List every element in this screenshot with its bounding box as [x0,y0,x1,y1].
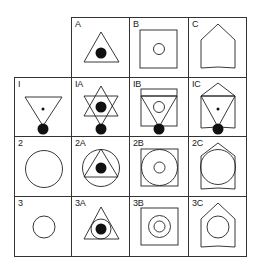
small-circle-icon [15,197,73,258]
cell-3A: 3A [71,196,130,257]
square-concentric-circle-icon [130,137,190,198]
large-circle-icon [15,137,73,198]
arch-small-circle-icon [189,197,248,258]
cell-1A: IA [71,77,130,137]
arch-circle-icon [189,137,248,198]
inverted-triangle-icon [15,78,73,138]
cell-3C: 3C [188,196,247,257]
square-circle-icon [130,18,190,79]
cell-2: 2 [14,136,72,197]
cell-3: 3 [14,196,72,257]
cell-3B: 3B [129,196,189,257]
arch-shape-icon [189,18,248,79]
hexagram-icon [72,78,131,138]
cell-2C: 2C [188,136,247,197]
cell-2B: 2B [129,136,189,197]
cell-B: B [129,17,189,78]
cell-A: A [71,17,130,78]
cell-C: C [188,17,247,78]
cell-2A: 2A [71,136,130,197]
cell-1C: IC [188,77,247,137]
triangle-dot-icon [72,18,131,79]
cell-1: I [14,77,72,137]
cell-1B: IB [129,77,189,137]
triangle-circle-dot-icon [72,197,131,258]
square-double-circle-icon [130,197,190,258]
arch-inverted-triangle-icon [189,78,248,138]
square-inverted-triangle-icon [130,78,190,138]
circle-triangle-icon [72,137,131,198]
